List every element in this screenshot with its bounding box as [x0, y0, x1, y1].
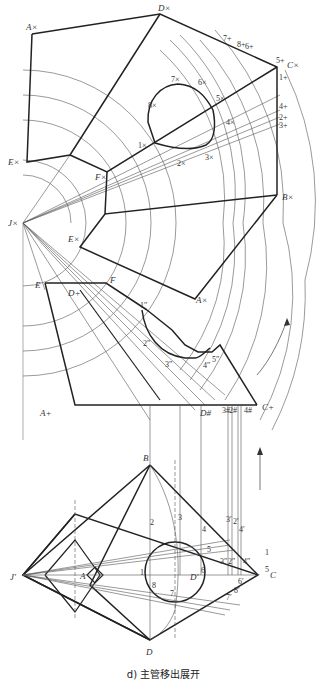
svg-text:E: E	[34, 280, 41, 290]
svg-text:6×: 6×	[198, 78, 207, 87]
svg-text:2″: 2″	[228, 557, 235, 566]
svg-text:B×: B×	[282, 192, 294, 202]
svg-text:2#: 2#	[229, 406, 237, 415]
svg-text:3′: 3′	[226, 515, 232, 524]
lower-plan	[23, 460, 258, 640]
svg-text:F: F	[109, 275, 116, 285]
svg-text:1×: 1×	[138, 141, 147, 150]
svg-text:4′: 4′	[239, 525, 245, 534]
svg-text:7: 7	[170, 589, 174, 598]
svg-text:6′: 6′	[238, 577, 244, 586]
svg-text:1: 1	[265, 548, 269, 557]
svg-text:5″: 5″	[212, 355, 219, 364]
svg-text:5: 5	[265, 565, 269, 574]
svg-text:C+: C+	[262, 402, 274, 412]
svg-text:2: 2	[150, 518, 154, 527]
upper-development	[23, 14, 277, 440]
svg-text:5: 5	[207, 545, 211, 554]
svg-text:A: A	[79, 571, 86, 581]
svg-text:D′: D′	[189, 572, 199, 582]
figure-caption: d) 主管移出展开	[0, 666, 327, 681]
svg-text:E×: E×	[67, 234, 80, 244]
svg-text:1″: 1″	[140, 301, 147, 310]
svg-text:5×: 5×	[216, 94, 225, 103]
svg-text:3+: 3+	[279, 121, 288, 130]
svg-text:D: D	[145, 647, 153, 657]
svg-text:6+: 6+	[245, 42, 254, 51]
svg-text:8: 8	[152, 581, 156, 590]
svg-text:7′: 7′	[226, 593, 232, 602]
svg-text:J′: J′	[10, 572, 17, 582]
svg-text:3: 3	[178, 513, 182, 522]
svg-text:E×: E×	[7, 157, 20, 167]
svg-text:3″: 3″	[165, 360, 172, 369]
svg-text:4″: 4″	[243, 557, 250, 566]
svg-text:D×: D×	[157, 3, 171, 13]
svg-text:4#: 4#	[244, 406, 252, 415]
svg-text:5+: 5+	[276, 56, 285, 65]
svg-text:A×: A×	[25, 22, 38, 32]
labels: A× D× C× B× E× J× F× E× E F D+ A× A+ D# …	[7, 3, 299, 657]
svg-text:A×: A×	[195, 295, 208, 305]
svg-text:D+: D+	[67, 288, 81, 298]
svg-text:B: B	[143, 453, 149, 463]
svg-text:4×: 4×	[226, 118, 235, 127]
svg-text:4: 4	[202, 525, 206, 534]
svg-text:D#: D#	[199, 408, 211, 418]
svg-text:A+: A+	[39, 408, 52, 418]
svg-text:C: C	[270, 570, 277, 580]
svg-text:8′: 8′	[234, 586, 240, 595]
svg-text:3″: 3″	[220, 557, 227, 566]
development-diagram: A× D× C× B× E× J× F× E× E F D+ A× A+ D# …	[0, 0, 327, 685]
svg-text:7×: 7×	[171, 75, 180, 84]
svg-text:C×: C×	[287, 60, 299, 70]
svg-text:8×: 8×	[148, 101, 157, 110]
svg-text:2×: 2×	[177, 159, 186, 168]
svg-text:4″: 4″	[203, 361, 210, 370]
svg-text:J×: J×	[8, 218, 18, 228]
svg-text:6: 6	[201, 566, 205, 575]
svg-text:1+: 1+	[279, 73, 288, 82]
svg-text:7+: 7+	[223, 34, 232, 43]
svg-text:1: 1	[140, 568, 144, 577]
svg-text:4+: 4+	[279, 102, 288, 111]
svg-text:2″: 2″	[143, 339, 150, 348]
svg-text:F×: F×	[94, 172, 107, 182]
svg-text:3×: 3×	[205, 153, 214, 162]
